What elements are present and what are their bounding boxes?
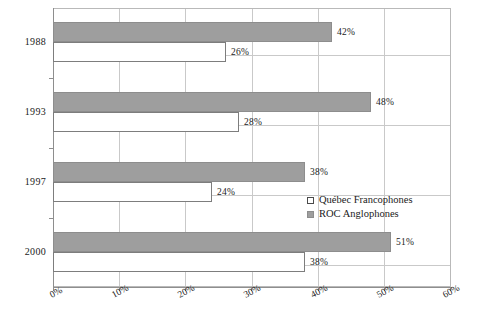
bar-qc-1993 <box>53 112 239 132</box>
bar-roc-1993 <box>53 92 371 112</box>
ytick-2 <box>49 148 53 149</box>
bar-value-qc-2000: 38% <box>310 257 328 267</box>
ytick-3 <box>49 218 53 219</box>
bar-value-roc-1988: 42% <box>337 27 355 37</box>
bar-roc-1988 <box>53 22 332 42</box>
bar-qc-1997 <box>53 182 212 202</box>
category-label-2000: 2000 <box>0 246 46 257</box>
legend-item-quebec-francophones: Québec Francophones <box>307 193 413 207</box>
filled-square-icon <box>307 211 314 218</box>
bar-value-roc-2000: 51% <box>396 237 414 247</box>
bar-qc-2000 <box>53 252 305 272</box>
category-label-1997: 1997 <box>0 176 46 187</box>
legend-label-roc-anglophones: ROC Anglophones <box>319 207 399 221</box>
ytick-1 <box>49 78 53 79</box>
bar-value-qc-1993: 28% <box>244 117 262 127</box>
bar-value-roc-1993: 48% <box>376 97 394 107</box>
bar-value-qc-1997: 24% <box>217 187 235 197</box>
bar-value-qc-1988: 26% <box>231 47 249 57</box>
legend-label-quebec-francophones: Québec Francophones <box>319 193 413 207</box>
category-label-1993: 1993 <box>0 106 46 117</box>
bar-value-roc-1997: 38% <box>310 167 328 177</box>
category-label-1988: 1988 <box>0 36 46 47</box>
legend-item-roc-anglophones: ROC Anglophones <box>307 207 413 221</box>
bar-roc-1997 <box>53 162 305 182</box>
hollow-square-icon <box>307 197 314 204</box>
bar-roc-2000 <box>53 232 391 252</box>
bar-chart: 1988 42% 26% 1993 48% 28% 1997 38% 24% 2… <box>0 0 482 320</box>
bar-qc-1988 <box>53 42 226 62</box>
legend: Québec Francophones ROC Anglophones <box>307 193 413 221</box>
